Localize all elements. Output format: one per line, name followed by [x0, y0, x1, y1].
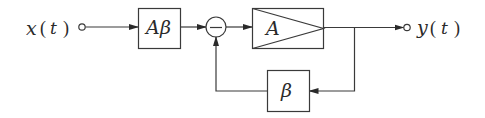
- summing-junction: [206, 17, 226, 37]
- input-lparen: (: [40, 18, 46, 39]
- amplifier-block: A: [253, 9, 324, 49]
- input-rparen: ): [63, 18, 69, 39]
- input-var: x: [26, 17, 37, 39]
- input-terminal: [79, 24, 85, 30]
- output-lparen: (: [430, 18, 436, 39]
- input-label: x ( t ): [26, 17, 69, 39]
- output-var: y: [416, 16, 428, 38]
- output-label: y ( t ): [416, 16, 460, 39]
- amplifier-label: A: [264, 17, 280, 39]
- output-terminal: [404, 24, 410, 30]
- feedback-label: β: [280, 79, 292, 101]
- input-arg: t: [50, 18, 57, 38]
- prescale-label-beta: β: [159, 16, 171, 38]
- feedback-block: β: [268, 71, 310, 112]
- prescale-block: A β: [139, 9, 181, 49]
- output-rparen: ): [454, 18, 460, 39]
- output-arg: t: [441, 18, 448, 38]
- prescale-label-A: A: [144, 16, 160, 38]
- block-diagram: x ( t ) A β A y ( t ) β: [0, 0, 485, 118]
